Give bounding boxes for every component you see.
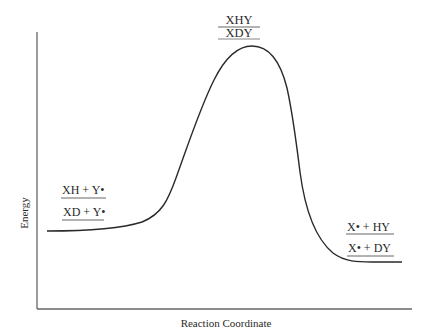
energy-diagram: Energy Reaction Coordinate XHY XDY XH + …: [0, 0, 430, 335]
reactant-label-xh: XH + Y•: [62, 183, 105, 197]
ts-label-xhy: XHY: [225, 13, 252, 27]
reactant-label-xd: XD + Y•: [63, 205, 106, 219]
ts-label-xdy: XDY: [225, 26, 252, 40]
product-label-hy: X• + HY: [347, 220, 390, 234]
product-label-dy: X• + DY: [348, 241, 391, 255]
y-axis-label: Energy: [18, 197, 30, 229]
x-axis-label: Reaction Coordinate: [181, 317, 272, 329]
